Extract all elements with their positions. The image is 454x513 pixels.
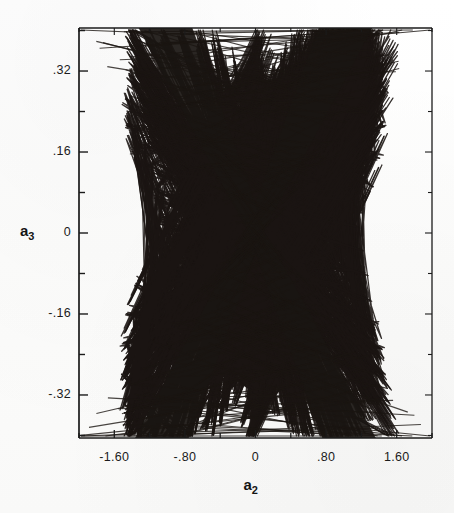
y-axis-title: a3 (20, 222, 34, 242)
x-axis-title: a2 (244, 476, 258, 496)
trajectory-layer (81, 28, 430, 438)
x-axis-title-subscript: 2 (252, 484, 258, 496)
x-tick-label: -1.60 (82, 450, 146, 464)
plot-page: .32 .16 0 -.16 -.32 -1.60 -.80 0 .80 1.6… (0, 0, 454, 513)
x-tick-label: 0 (224, 450, 288, 464)
x-tick-label: .80 (294, 450, 358, 464)
y-tick-label: .16 (53, 144, 71, 158)
x-tick-label: 1.60 (365, 450, 429, 464)
y-tick-label: -.32 (48, 387, 71, 401)
y-tick-label: -.16 (48, 306, 71, 320)
y-tick-label: 0 (64, 225, 71, 239)
y-tick-label: .32 (53, 63, 71, 77)
x-axis-title-base: a (244, 476, 252, 493)
y-axis-title-subscript: 3 (28, 230, 34, 242)
x-tick-label: -.80 (153, 450, 217, 464)
